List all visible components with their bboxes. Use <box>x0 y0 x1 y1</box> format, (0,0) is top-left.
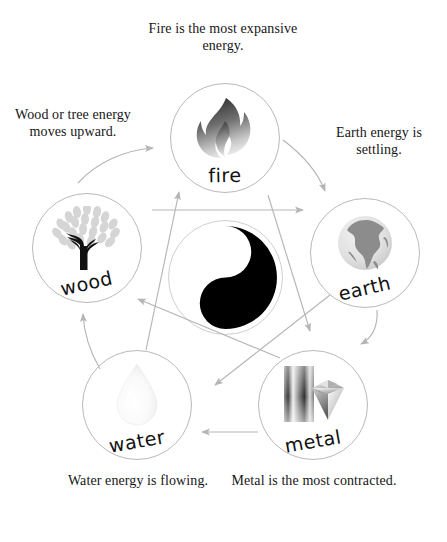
arrow-water-to-wood <box>83 314 100 369</box>
node-fire[interactable]: fire <box>170 83 280 193</box>
node-wood[interactable]: wood <box>32 193 142 303</box>
yin-yang-icon <box>173 225 278 330</box>
caption-wood: Wood or tree energy moves upward. <box>8 106 138 140</box>
node-label-earth: earth <box>309 265 419 311</box>
caption-earth: Earth energy is settling. <box>318 124 440 158</box>
node-metal[interactable]: metal <box>258 350 368 460</box>
arrow-wood-to-fire <box>78 148 153 183</box>
caption-metal: Metal is the most contracted. <box>228 472 400 489</box>
node-earth[interactable]: earth <box>310 198 420 308</box>
tree-icon <box>33 206 141 270</box>
caption-water: Water energy is flowing. <box>52 472 224 489</box>
globe-icon <box>311 211 419 275</box>
node-water[interactable]: water <box>82 350 192 460</box>
diagram-canvas: Fire is the most expansive energy. Wood … <box>0 0 447 542</box>
caption-fire: Fire is the most expansive energy. <box>133 20 313 54</box>
node-label-fire: fire <box>171 163 279 187</box>
node-label-metal: metal <box>258 421 368 461</box>
arrow-earth-to-metal <box>361 310 377 344</box>
water-drop-icon <box>83 363 191 427</box>
node-center-taiji[interactable] <box>168 220 283 335</box>
flame-icon <box>171 96 279 160</box>
node-label-wood: wood <box>31 260 141 306</box>
metal-bar-and-diamond-icon <box>259 363 367 427</box>
node-label-water: water <box>82 421 192 461</box>
